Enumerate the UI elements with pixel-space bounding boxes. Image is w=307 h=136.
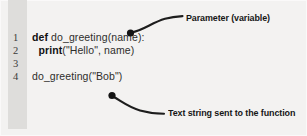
code-line-text: def do_greeting(name):: [32, 31, 145, 44]
code-keyword: def: [32, 31, 48, 43]
code-line: 4 do_greeting("Bob"): [0, 70, 307, 83]
leader-line-string: [113, 97, 164, 114]
line-number: 2: [13, 44, 23, 57]
line-number: 1: [13, 31, 23, 44]
code-line-text: do_greeting("Bob"): [32, 70, 122, 83]
code-line-remainder: do_greeting("Bob"): [32, 70, 122, 82]
code-block: 1 def do_greeting(name): 2 print("Hello"…: [0, 31, 307, 83]
code-line-remainder: ("Hello", name): [62, 44, 134, 56]
annotation-label-text-string: Text string sent to the function: [168, 107, 295, 118]
code-line: 2 print("Hello", name): [0, 44, 307, 57]
leader-dot-string: [108, 92, 115, 99]
code-line: 1 def do_greeting(name):: [0, 31, 307, 44]
code-annotation-figure: 1 def do_greeting(name): 2 print("Hello"…: [0, 0, 307, 136]
annotation-label-parameter: Parameter (variable): [186, 12, 270, 23]
code-keyword: print: [39, 44, 63, 56]
code-line-remainder: do_greeting(name):: [48, 31, 144, 43]
code-line: 3: [0, 57, 307, 70]
line-number: 4: [13, 70, 23, 83]
line-number: 3: [13, 57, 23, 70]
code-line-text: print("Hello", name): [39, 44, 135, 57]
